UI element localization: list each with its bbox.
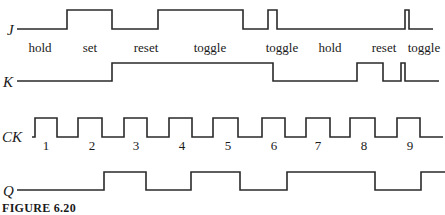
clock-pulse-number: 4 — [179, 138, 186, 153]
state-label: set — [83, 40, 98, 55]
waveform-q — [17, 172, 445, 190]
waveform-k — [17, 63, 439, 81]
clock-pulse-number: 8 — [361, 138, 368, 153]
clock-pulse-number: 3 — [133, 138, 140, 153]
state-label: toggle — [408, 40, 441, 55]
figure-caption: FIGURE 6.20 — [2, 201, 76, 215]
signal-label-ck: CK — [2, 129, 23, 145]
clock-pulse-number: 7 — [315, 138, 322, 153]
state-label: hold — [318, 40, 342, 55]
state-label: hold — [28, 40, 52, 55]
signal-label-k: K — [2, 74, 14, 90]
clock-pulse-number: 9 — [407, 138, 414, 153]
state-label: reset — [134, 40, 159, 55]
clock-pulse-number: 5 — [225, 138, 232, 153]
state-label: toggle — [266, 40, 299, 55]
timing-diagram: JKCKQholdsetresettoggletoggleholdresetto… — [0, 0, 445, 215]
signal-label-q: Q — [3, 183, 14, 199]
signal-label-j: J — [7, 22, 15, 38]
clock-pulse-number: 6 — [271, 138, 278, 153]
state-label: reset — [372, 40, 397, 55]
waveform-j — [17, 10, 433, 29]
clock-pulse-number: 1 — [43, 138, 50, 153]
clock-pulse-number: 2 — [89, 138, 96, 153]
waveform-ck — [32, 118, 443, 137]
state-label: toggle — [194, 40, 227, 55]
